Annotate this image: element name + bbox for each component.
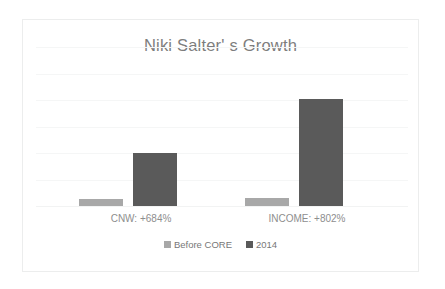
category-label-income: INCOME: +802%	[232, 213, 382, 224]
legend-swatch-icon	[164, 241, 171, 248]
legend-label: 2014	[256, 239, 277, 250]
legend-swatch-icon	[246, 241, 253, 248]
bar-before-core-income[interactable]	[245, 198, 289, 206]
plot-area	[36, 47, 408, 207]
category-label-cnw: CNW: +684%	[66, 213, 216, 224]
legend-item-2014[interactable]: 2014	[246, 239, 277, 250]
bar-2014-cnw[interactable]	[133, 153, 177, 206]
legend-label: Before CORE	[174, 239, 232, 250]
bar-2014-income[interactable]	[299, 99, 343, 206]
category-axis-labels: CNW: +684% INCOME: +802%	[36, 213, 408, 229]
bar-group	[66, 47, 216, 206]
legend-item-before-core[interactable]: Before CORE	[164, 239, 232, 250]
bar-before-core-cnw[interactable]	[79, 199, 123, 206]
chart-legend: Before CORE 2014	[23, 239, 418, 250]
bar-group	[232, 47, 382, 206]
chart-frame: Niki Salter' s Growth CNW: +684% INCOME:…	[22, 19, 419, 272]
category-axis-line	[36, 206, 408, 207]
